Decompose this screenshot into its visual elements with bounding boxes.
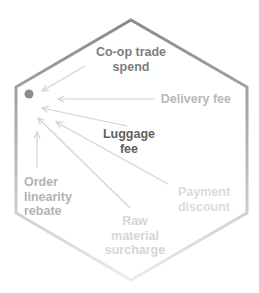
label-line: Delivery fee [161, 92, 231, 106]
arrow-order [34, 132, 40, 168]
arrow-line [42, 108, 127, 126]
label-group: Co-op tradespendDelivery feeLuggagefeePa… [24, 45, 231, 257]
arrow-delivery [58, 96, 155, 102]
label-coop: Co-op tradespend [96, 45, 166, 74]
label-line: surcharge [105, 243, 165, 257]
arrow-luggage [42, 106, 127, 126]
label-raw: Rawmaterialsurcharge [105, 214, 165, 257]
label-order: Orderlinearityrebate [24, 175, 72, 218]
label-line: fee [120, 142, 138, 156]
label-line: Order [24, 175, 58, 189]
label-line: Co-op trade [96, 45, 166, 59]
label-line: Raw [122, 214, 148, 228]
diagram-canvas: Co-op tradespendDelivery feeLuggagefeePa… [0, 0, 259, 293]
label-line: material [111, 229, 159, 243]
label-line: discount [178, 200, 231, 214]
label-line: linearity [24, 190, 72, 204]
label-line: Luggage [103, 127, 155, 141]
target-dot [25, 90, 34, 99]
label-line: Payment [178, 185, 231, 199]
label-luggage: Luggagefee [103, 127, 155, 156]
label-delivery: Delivery fee [161, 92, 231, 106]
label-line: spend [113, 60, 150, 74]
label-line: rebate [24, 204, 62, 218]
hexagon-diagram: Co-op tradespendDelivery feeLuggagefeePa… [0, 0, 259, 293]
label-payment: Paymentdiscount [178, 185, 231, 214]
